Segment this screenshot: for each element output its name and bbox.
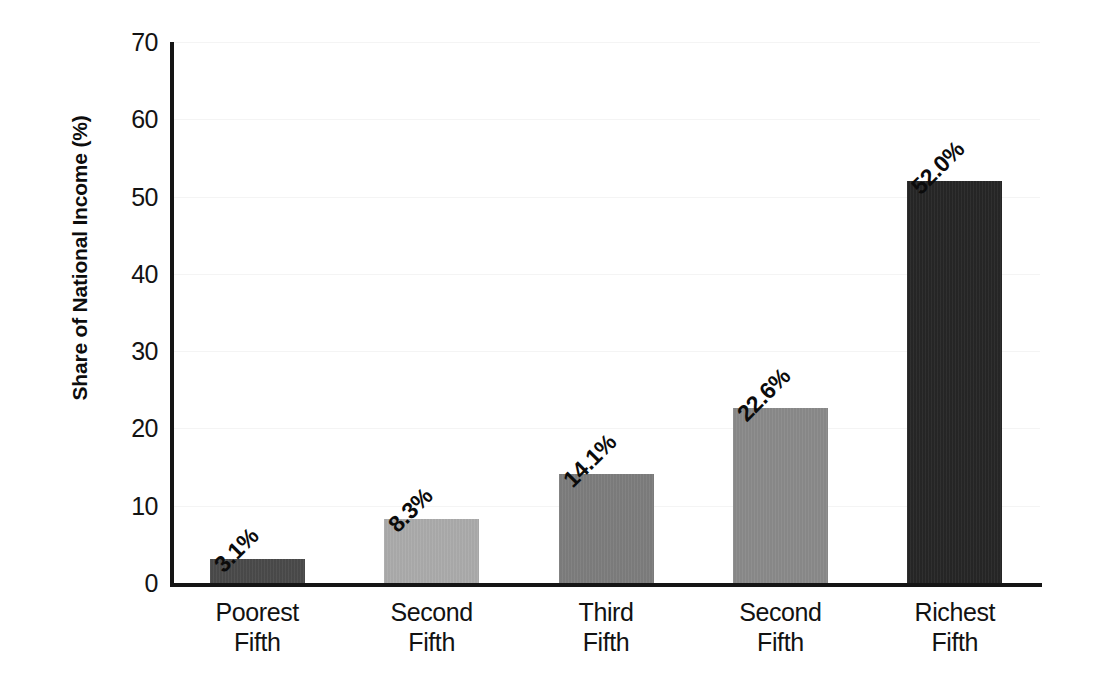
y-axis-tick-label: 0 bbox=[100, 569, 158, 598]
y-axis-tick-label: 60 bbox=[100, 105, 158, 134]
x-axis-category-label: RichestFifth bbox=[865, 597, 1045, 657]
x-axis-category-label: SecondFifth bbox=[342, 597, 522, 657]
category-label-line1: Third bbox=[579, 598, 634, 626]
category-label-line2: Fifth bbox=[516, 627, 696, 657]
category-label-line1: Poorest bbox=[216, 598, 299, 626]
y-axis-tick-label: 20 bbox=[100, 414, 158, 443]
category-label-line2: Fifth bbox=[342, 627, 522, 657]
y-axis-title: Share of National Income (%) bbox=[62, 0, 98, 528]
category-label-line2: Fifth bbox=[167, 627, 347, 657]
bar-texture bbox=[733, 408, 828, 583]
bar-chart: Share of National Income (%) 70605040302… bbox=[0, 0, 1093, 693]
bar-texture bbox=[559, 474, 654, 583]
y-axis-tick-label: 30 bbox=[100, 337, 158, 366]
x-axis-category-label: PoorestFifth bbox=[167, 597, 347, 657]
x-axis-category-label: ThirdFifth bbox=[516, 597, 696, 657]
category-label-line1: Richest bbox=[915, 598, 996, 626]
bar[interactable] bbox=[907, 181, 1002, 583]
category-label-line2: Fifth bbox=[865, 627, 1045, 657]
x-axis-category-label: SecondFifth bbox=[690, 597, 870, 657]
category-label-line2: Fifth bbox=[690, 627, 870, 657]
bar[interactable] bbox=[733, 408, 828, 583]
category-label-line1: Second bbox=[390, 598, 472, 626]
y-axis-tick-label: 10 bbox=[100, 491, 158, 520]
plot-area bbox=[170, 42, 1042, 583]
bar[interactable] bbox=[559, 474, 654, 583]
category-label-line1: Second bbox=[739, 598, 821, 626]
bar-texture bbox=[907, 181, 1002, 583]
y-axis-tick-label: 40 bbox=[100, 259, 158, 288]
x-axis-line bbox=[170, 583, 1042, 587]
y-axis-tick-label: 70 bbox=[100, 28, 158, 57]
y-axis-tick-label: 50 bbox=[100, 182, 158, 211]
